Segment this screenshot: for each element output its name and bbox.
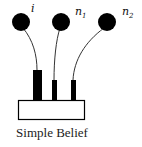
label-n2: n2 bbox=[122, 5, 134, 20]
label-i: i bbox=[31, 2, 35, 15]
edge-i bbox=[23, 28, 37, 70]
belief-box bbox=[19, 101, 85, 120]
bar-n2 bbox=[71, 80, 76, 100]
caption: Simple Belief bbox=[0, 125, 104, 141]
edge-n2 bbox=[73, 28, 104, 80]
bar-n1 bbox=[52, 80, 57, 100]
bar-i bbox=[33, 70, 42, 100]
node-n2 bbox=[98, 13, 116, 31]
label-n1: n1 bbox=[75, 5, 87, 20]
node-i bbox=[12, 13, 30, 31]
edge-n1 bbox=[54, 28, 60, 80]
node-n1 bbox=[52, 13, 70, 31]
